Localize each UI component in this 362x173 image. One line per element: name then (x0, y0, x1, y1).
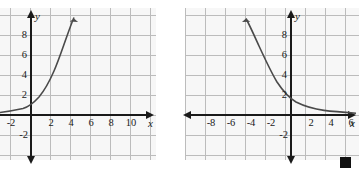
y-tick-label: 4 (282, 70, 287, 81)
y-tick-label: 4 (22, 70, 27, 81)
y-tick-label: 6 (282, 50, 287, 61)
y-tick-label: 8 (22, 30, 27, 41)
y-tick-label: 2 (282, 90, 287, 101)
y-tick-label: -2 (19, 130, 28, 141)
x-tick-label: 2 (48, 118, 53, 129)
x-tick-label: -2 (267, 118, 276, 129)
figure-container: -2 2 4 6 8 10 8 6 4 2 -2 y x (0, 0, 362, 173)
x-axis-label-right: x (350, 118, 355, 129)
x-tick-label: -6 (227, 118, 236, 129)
x-axis-label-left: x (148, 118, 153, 129)
x-tick-label: 4 (328, 118, 333, 129)
x-tick-label: -8 (207, 118, 216, 129)
y-tick-label: 6 (22, 50, 27, 61)
graph-right: -8 -6 -4 -2 2 4 6 8 6 4 2 -2 y x (181, 0, 362, 165)
y-tick-label: 8 (282, 30, 287, 41)
y-axis-label-left: y (35, 11, 40, 22)
x-tick-label: 8 (108, 118, 113, 129)
graph-left: -2 2 4 6 8 10 8 6 4 2 -2 y x (0, 0, 160, 160)
y-tick-label: 2 (22, 90, 27, 101)
x-tick-label: 2 (308, 118, 313, 129)
end-of-section-square-icon (340, 157, 351, 168)
x-tick-label: -4 (247, 118, 256, 129)
y-axis-label-right: y (295, 11, 300, 22)
y-tick-label: -2 (279, 130, 288, 141)
x-tick-label: -2 (7, 118, 16, 129)
x-tick-label: 6 (88, 118, 93, 129)
x-tick-label: 4 (68, 118, 73, 129)
curve-exponential-decay-right (181, 0, 362, 165)
x-tick-label: 10 (126, 118, 137, 129)
